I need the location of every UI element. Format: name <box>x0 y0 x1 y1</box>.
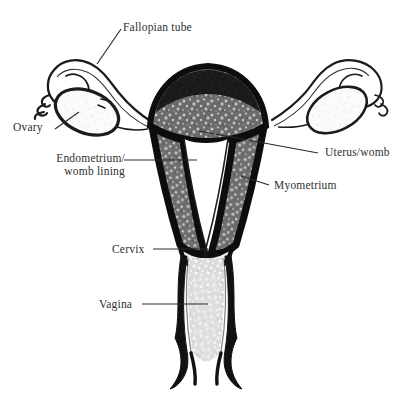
label-myometrium: Myometrium <box>274 179 337 192</box>
left-ovarian-ligament <box>117 127 148 130</box>
uterine-body <box>152 127 264 254</box>
left-adnexa <box>35 60 152 144</box>
right-adnexa <box>272 60 388 142</box>
label-vagina: Vagina <box>99 298 132 311</box>
anatomy-diagram: Fallopian tube Ovary Endometrium/ womb l… <box>0 0 415 403</box>
leader-fallopian-tube <box>97 29 121 64</box>
vagina <box>170 256 242 389</box>
right-vaginal-wall <box>224 256 242 389</box>
vaginal-canal-texture2 <box>192 276 220 358</box>
left-vaginal-wall <box>170 256 188 389</box>
label-endometrium: Endometrium/ womb lining <box>25 152 125 178</box>
label-endometrium-line2: womb lining <box>25 165 125 178</box>
left-ovary <box>49 80 126 144</box>
label-uterus-womb: Uterus/womb <box>325 146 390 159</box>
label-fallopian-tube: Fallopian tube <box>123 21 192 34</box>
left-fimbriae <box>35 95 50 119</box>
right-fimbriae <box>375 95 388 116</box>
label-cervix: Cervix <box>112 243 145 256</box>
uterine-fundus <box>150 66 266 141</box>
right-ovarian-ligament <box>278 124 309 127</box>
label-ovary: Ovary <box>13 121 43 134</box>
diagram-canvas <box>0 0 415 403</box>
label-endometrium-line1: Endometrium/ <box>25 152 125 165</box>
